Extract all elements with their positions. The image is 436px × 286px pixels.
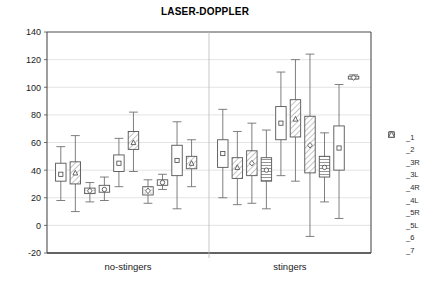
- y-tick-label: 60: [31, 138, 41, 148]
- mean-marker-circle: [264, 168, 268, 172]
- y-tick-label: 100: [26, 83, 41, 93]
- box-plot-item: [114, 138, 124, 186]
- x-axis-group-label: no-stingers: [105, 261, 152, 272]
- legend-item-label: _4R: [406, 184, 420, 192]
- legend-item[interactable]: _5L: [388, 219, 436, 232]
- box-plot-item: [218, 109, 228, 197]
- box-plot-item: [172, 122, 182, 209]
- box-plot-item: [247, 123, 257, 203]
- box-plot-item: [305, 54, 315, 236]
- mean-marker-square: [221, 151, 225, 155]
- legend-item[interactable]: _3R: [388, 156, 436, 169]
- legend-item[interactable]: _4L: [388, 194, 436, 207]
- legend-item[interactable]: _7: [388, 244, 436, 257]
- y-tick-label: 80: [31, 110, 41, 120]
- legend-item-label: _1: [406, 134, 414, 142]
- y-tick-label: 120: [26, 55, 41, 65]
- mean-marker-square: [337, 146, 341, 150]
- y-tick-label: -20: [28, 248, 41, 258]
- box-plot-item: [157, 174, 167, 189]
- axis-frame: [47, 32, 371, 258]
- legend-item-label: _3L: [406, 171, 419, 179]
- mean-marker-diamond: [351, 75, 356, 81]
- legend-item-label: _4L: [406, 197, 419, 205]
- y-tick-label: 40: [31, 166, 41, 176]
- box-plot-item: [56, 147, 66, 201]
- legend-item-label: _2: [406, 146, 414, 154]
- legend-item-label: _5R: [406, 209, 420, 217]
- legend-item[interactable]: _2: [388, 144, 436, 157]
- laser-doppler-boxplot: LASER-DOPPLER -20020406080100120140 no-s…: [0, 0, 436, 286]
- mean-marker-circle: [322, 165, 326, 169]
- legend-item-label: _7: [406, 247, 414, 255]
- box-plot-item: [290, 60, 300, 182]
- y-tick-label: 140: [26, 27, 41, 37]
- box-plot-item: [348, 75, 358, 81]
- plot-svg: -20020406080100120140 no-stingersstinger…: [0, 0, 436, 286]
- mean-marker-square: [59, 172, 63, 176]
- legend-item-label: _5L: [406, 222, 419, 230]
- box-plot-item: [319, 133, 329, 202]
- legend-item[interactable]: _3L: [388, 169, 436, 182]
- legend-item[interactable]: _1: [388, 131, 436, 144]
- box-plot-item: [143, 180, 153, 203]
- x-axis-group-label: stingers: [273, 261, 307, 272]
- box-plot-item: [70, 136, 80, 212]
- mean-marker-square: [117, 161, 121, 165]
- x-axis-group-labels: no-stingersstingers: [105, 261, 307, 272]
- box-plot-item: [85, 183, 95, 202]
- legend: _1_2_3R_3L_4R_4L_5R_5L_6_7: [388, 131, 436, 257]
- mean-marker-circle: [102, 187, 106, 191]
- box-plot-series: [56, 54, 359, 236]
- box-plot-item: [128, 112, 138, 171]
- legend-item[interactable]: _6: [388, 232, 436, 245]
- legend-item-label: _6: [406, 234, 414, 242]
- legend-item[interactable]: _5R: [388, 207, 436, 220]
- box-plot-item: [261, 130, 271, 209]
- legend-item-label: _3R: [406, 159, 420, 167]
- box-plot-item: [186, 140, 196, 187]
- mean-marker-square: [279, 121, 283, 125]
- y-tick-label: 20: [31, 193, 41, 203]
- mean-marker-circle: [160, 180, 164, 184]
- y-tick-label: 0: [36, 221, 41, 231]
- legend-item[interactable]: _4R: [388, 181, 436, 194]
- mean-marker-square: [175, 158, 179, 162]
- y-axis-ticks: -20020406080100120140: [26, 27, 47, 258]
- box-plot-item: [99, 177, 109, 200]
- box-plot-item: [334, 84, 344, 218]
